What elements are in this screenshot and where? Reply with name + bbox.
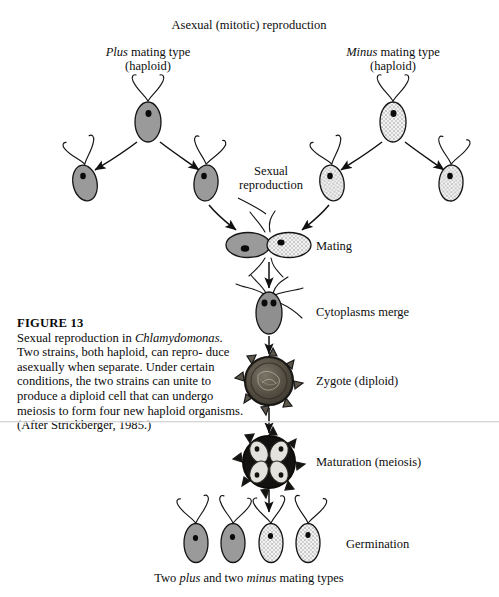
scan-artifact-line-secondary xyxy=(0,422,499,423)
label-sexual-reproduction: Sexual reproduction xyxy=(239,164,303,192)
cell-minus-daughter-left xyxy=(309,135,347,203)
figure-canvas: Asexual (mitotic) reproduction Plus mati… xyxy=(0,0,499,597)
minus-rest: mating type xyxy=(377,45,440,59)
arrow-plus-split-right xyxy=(160,142,199,170)
bottom-plus-italic: plus xyxy=(179,571,200,585)
plus-haploid: (haploid) xyxy=(125,59,171,73)
cell-plus-daughter-right xyxy=(191,135,227,202)
bottom-mid: and two xyxy=(200,571,246,585)
cell-maturation-meiosis xyxy=(233,427,305,498)
label-bottom-mating-types: Two plus and two minus mating types xyxy=(154,571,343,585)
cell-plus-daughter-left xyxy=(62,135,100,204)
arrow-minus-split-right xyxy=(405,142,444,170)
minus-haploid: (haploid) xyxy=(370,59,416,73)
label-mating: Mating xyxy=(316,239,352,253)
arrow-plus-split-left xyxy=(95,142,137,170)
caption-organism: Chlamydomonas xyxy=(135,331,220,345)
label-minus-mating-type: Minus mating type (haploid) xyxy=(346,45,440,73)
cell-germ-2 xyxy=(217,495,251,562)
cell-plus-parent xyxy=(132,75,164,142)
figure-caption: FIGURE 13 Sexual reproduction in Chlamyd… xyxy=(17,316,245,433)
cell-germ-3 xyxy=(253,496,287,563)
leader-sexual-reproduction xyxy=(238,198,266,214)
caption-body: Sexual reproduction in Chlamydomonas. Tw… xyxy=(17,331,245,433)
label-cytoplasms-merge: Cytoplasms merge xyxy=(316,305,409,319)
figure-number: FIGURE 13 xyxy=(17,316,245,331)
label-asexual-reproduction: Asexual (mitotic) reproduction xyxy=(172,18,327,32)
plus-italic: Plus xyxy=(106,45,128,59)
label-germination: Germination xyxy=(346,537,409,551)
sexual-line-1: Sexual xyxy=(254,164,288,178)
caption-line-1: Sexual reproduction in xyxy=(17,331,135,345)
cell-germ-4 xyxy=(292,495,327,562)
cell-minus-daughter-right xyxy=(435,136,470,202)
cell-zygote xyxy=(235,348,303,415)
arrow-to-mating-left xyxy=(209,205,236,230)
bottom-pre: Two xyxy=(154,571,179,585)
plus-rest: mating type xyxy=(128,45,191,59)
bottom-minus-italic: minus xyxy=(246,571,276,585)
label-maturation-meiosis: Maturation (meiosis) xyxy=(316,455,421,469)
cell-minus-parent xyxy=(377,75,409,142)
bottom-post: mating types xyxy=(276,571,343,585)
label-plus-mating-type: Plus mating type (haploid) xyxy=(106,45,191,73)
arrow-to-mating-right xyxy=(302,205,329,230)
sexual-line-2: reproduction xyxy=(239,178,303,192)
minus-italic: Minus xyxy=(346,45,377,59)
cell-germ-1 xyxy=(177,495,212,563)
diagram-drawing xyxy=(0,0,499,597)
arrow-minus-split-left xyxy=(341,142,382,170)
label-zygote-diploid: Zygote (diploid) xyxy=(316,374,398,388)
